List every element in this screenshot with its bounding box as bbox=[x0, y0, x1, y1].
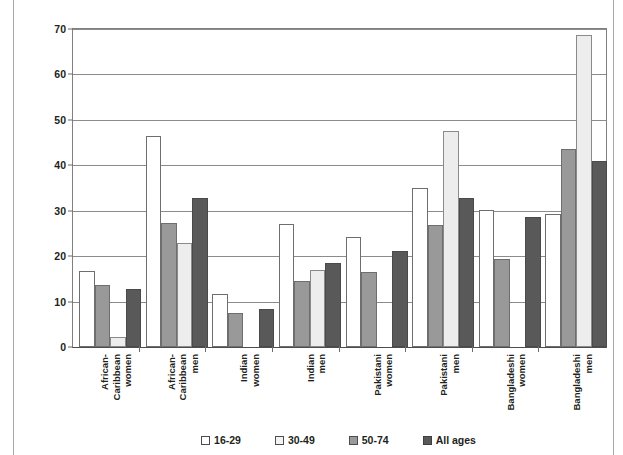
bar bbox=[576, 35, 592, 347]
x-tick-mark bbox=[472, 346, 473, 352]
x-tick-mark bbox=[405, 346, 406, 352]
legend-swatch-icon bbox=[201, 436, 210, 445]
x-tick-mark bbox=[339, 346, 340, 352]
bar-group bbox=[146, 29, 208, 347]
bar bbox=[146, 136, 162, 347]
legend-label: All ages bbox=[436, 434, 476, 446]
chart-root: Unemployment 010203040506070 African-Car… bbox=[0, 0, 623, 455]
bar bbox=[392, 251, 408, 347]
bar-group bbox=[279, 29, 341, 347]
bar bbox=[443, 131, 459, 347]
y-tick-label: 50 bbox=[54, 114, 66, 126]
legend-label: 50-74 bbox=[362, 434, 389, 446]
bar bbox=[192, 198, 208, 347]
bar-group bbox=[479, 29, 541, 347]
bar bbox=[95, 285, 111, 347]
bar-group bbox=[346, 29, 408, 347]
x-axis-label: men bbox=[316, 354, 332, 426]
x-axis-labels: African-CaribbeanwomenAfrican-Caribbeanm… bbox=[72, 354, 605, 426]
bar-group bbox=[79, 29, 141, 347]
y-tick-label: 60 bbox=[54, 68, 66, 80]
legend-swatch-icon bbox=[275, 436, 284, 445]
bar bbox=[494, 259, 510, 347]
legend-item[interactable]: 30-49 bbox=[275, 434, 315, 446]
x-axis-label: men bbox=[583, 354, 599, 426]
x-tick-mark bbox=[272, 346, 273, 352]
bar bbox=[177, 243, 193, 347]
y-tick-label: 30 bbox=[54, 205, 66, 217]
legend-swatch-icon bbox=[423, 436, 432, 445]
chart-legend: 16-2930-4950-74All ages bbox=[72, 430, 605, 450]
plot-area: 010203040506070 bbox=[72, 28, 607, 348]
bar bbox=[545, 214, 561, 347]
x-axis-label: women bbox=[383, 354, 399, 426]
bar bbox=[428, 225, 444, 347]
bar bbox=[525, 217, 541, 347]
bar bbox=[279, 224, 295, 347]
bar bbox=[228, 313, 244, 347]
bar bbox=[259, 309, 275, 347]
y-tick-label: 20 bbox=[54, 250, 66, 262]
bar bbox=[126, 289, 142, 347]
legend-label: 30-49 bbox=[288, 434, 315, 446]
bar bbox=[310, 270, 326, 347]
y-tick-label: 70 bbox=[54, 23, 66, 35]
x-axis-label: men bbox=[450, 354, 466, 426]
bar bbox=[212, 294, 228, 347]
page-rule-right bbox=[613, 0, 614, 455]
bar bbox=[346, 237, 362, 347]
bar bbox=[161, 223, 177, 347]
bar-group bbox=[212, 29, 274, 347]
x-axis-label: women bbox=[516, 354, 532, 426]
legend-label: 16-29 bbox=[214, 434, 241, 446]
x-axis-label: women bbox=[122, 354, 138, 426]
bar bbox=[361, 272, 377, 347]
y-tick-label: 0 bbox=[60, 341, 66, 353]
x-tick-mark bbox=[139, 346, 140, 352]
bar bbox=[459, 198, 475, 347]
page-rule-left bbox=[13, 0, 14, 455]
bar-series-container bbox=[73, 29, 606, 347]
x-axis-label: men bbox=[189, 354, 205, 426]
bar bbox=[479, 210, 495, 347]
x-tick-mark bbox=[538, 346, 539, 352]
bar bbox=[325, 263, 341, 347]
y-tick-label: 10 bbox=[54, 296, 66, 308]
bar bbox=[294, 281, 310, 347]
y-tick-label: 40 bbox=[54, 159, 66, 171]
legend-item[interactable]: 16-29 bbox=[201, 434, 241, 446]
legend-item[interactable]: 50-74 bbox=[349, 434, 389, 446]
bar bbox=[592, 161, 608, 347]
bar-group bbox=[545, 29, 607, 347]
bar-chart: Unemployment 010203040506070 African-Car… bbox=[22, 6, 612, 449]
x-axis-label: women bbox=[250, 354, 266, 426]
legend-swatch-icon bbox=[349, 436, 358, 445]
x-tick-mark bbox=[205, 346, 206, 352]
x-axis-ticks bbox=[72, 346, 605, 352]
bar bbox=[412, 188, 428, 347]
bar bbox=[561, 149, 577, 347]
bar-group bbox=[412, 29, 474, 347]
legend-item[interactable]: All ages bbox=[423, 434, 476, 446]
bar bbox=[79, 271, 95, 347]
